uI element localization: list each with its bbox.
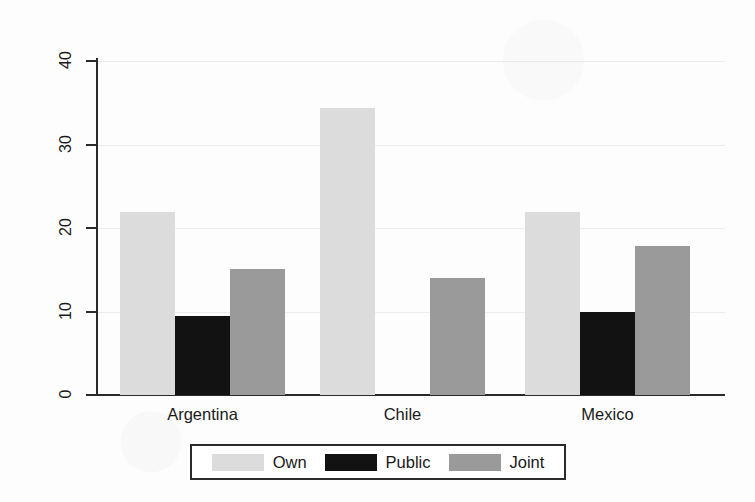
bar-argentina-own <box>120 212 175 395</box>
legend-swatch-joint <box>449 454 501 471</box>
bar-argentina-joint <box>230 269 285 395</box>
legend-label-public: Public <box>386 453 431 472</box>
legend-label-joint: Joint <box>510 453 545 472</box>
chart-legend: OwnPublicJoint <box>190 444 566 480</box>
bar-argentina-public <box>175 316 230 395</box>
x-axis-label-chile: Chile <box>320 402 485 426</box>
legend-swatch-own <box>212 454 264 471</box>
bar-chart-figure: Thousands of 2002 US$ 010203040 Argentin… <box>0 0 755 502</box>
bars-layer <box>0 0 755 395</box>
legend-item-joint[interactable]: Joint <box>449 453 545 472</box>
bar-chile-joint <box>430 278 485 395</box>
x-axis-label-argentina: Argentina <box>120 402 285 426</box>
legend-item-own[interactable]: Own <box>212 453 307 472</box>
bar-mexico-public <box>580 312 635 396</box>
bar-mexico-joint <box>635 246 690 395</box>
x-axis-label-mexico: Mexico <box>525 402 690 426</box>
bar-chile-own <box>320 108 375 395</box>
legend-item-public[interactable]: Public <box>325 453 431 472</box>
legend-label-own: Own <box>273 453 307 472</box>
bar-mexico-own <box>525 212 580 395</box>
legend-swatch-public <box>325 454 377 471</box>
